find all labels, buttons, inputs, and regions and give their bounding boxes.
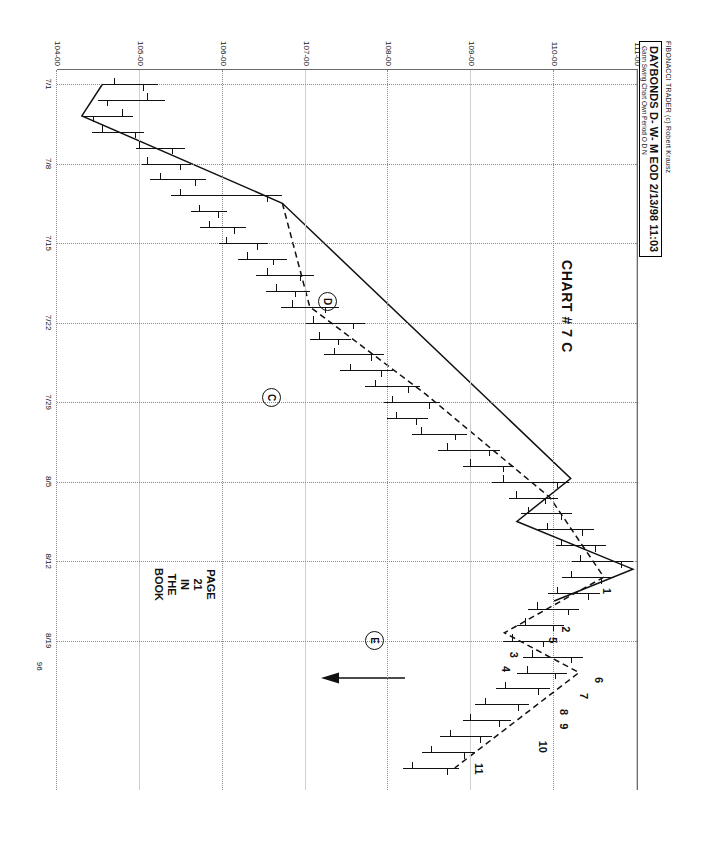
price-axis-tick-label: 110-00	[549, 42, 558, 66]
ohlc-close-tick	[172, 148, 173, 155]
swing-point-number: 5	[547, 637, 559, 643]
date-gridline	[57, 402, 637, 403]
ohlc-open-tick	[579, 555, 580, 562]
ohlc-open-tick	[395, 412, 396, 419]
book-ref-line1: PAGE	[204, 568, 217, 601]
price-gridline	[304, 70, 305, 790]
circled-label-d: D	[318, 292, 337, 311]
ohlc-open-tick	[412, 762, 413, 769]
chart-sheet: FIBONACCI TRADER (c) Robert Krausz DAYBO…	[0, 0, 701, 868]
ohlc-close-tick	[557, 482, 558, 489]
date-axis-tick-label: 7/29	[44, 394, 53, 410]
ohlc-close-tick	[416, 418, 417, 425]
ohlc-bar	[537, 529, 593, 530]
ohlc-bar	[463, 466, 514, 467]
symbol-info-box: DAYBONDS D- W- M EOD 2/13/98 11:03 Gann …	[639, 41, 662, 257]
gann-swing-up-line	[81, 84, 632, 601]
ohlc-open-tick	[147, 157, 148, 164]
ohlc-open-tick	[246, 252, 247, 259]
ohlc-bar	[411, 434, 467, 435]
ohlc-open-tick	[101, 125, 102, 132]
ohlc-bar	[438, 450, 500, 451]
ohlc-bar	[439, 736, 491, 737]
ohlc-open-tick	[571, 571, 572, 578]
ohlc-close-tick	[543, 641, 544, 648]
ohlc-close-tick	[180, 164, 181, 171]
ohlc-bar	[516, 673, 566, 674]
ohlc-open-tick	[375, 380, 376, 387]
software-brand-label: FIBONACCI TRADER (c) Robert Krausz	[665, 41, 672, 257]
price-axis-tick-label: 109-00	[466, 41, 475, 66]
date-gridline	[57, 561, 637, 562]
ohlc-bar	[384, 402, 440, 403]
date-axis-tick-label: 8/19	[44, 633, 53, 649]
ohlc-open-tick	[485, 698, 486, 705]
ohlc-close-tick	[463, 752, 464, 759]
ohlc-open-tick	[524, 618, 525, 625]
ohlc-open-tick	[503, 475, 504, 482]
symbol-label: DAYBONDS D- W- M EOD 2/13/98 11:03	[648, 46, 660, 252]
ohlc-close-tick	[370, 354, 371, 361]
price-axis-tick-label: 108-00	[383, 41, 392, 66]
ohlc-close-tick	[337, 339, 338, 346]
ohlc-open-tick	[114, 78, 115, 85]
ohlc-open-tick	[470, 459, 471, 466]
ohlc-close-tick	[294, 291, 295, 298]
swing-point-number: 11	[472, 763, 484, 775]
ohlc-bar	[403, 768, 459, 769]
rotated-page-wrapper: FIBONACCI TRADER (c) Robert Krausz DAYBO…	[0, 0, 701, 868]
book-ref-line4: THE	[165, 568, 178, 601]
ohlc-close-tick	[568, 609, 569, 616]
ohlc-bar	[522, 657, 582, 658]
ohlc-bar	[171, 195, 282, 196]
ohlc-close-tick	[234, 227, 235, 234]
ohlc-open-tick	[546, 523, 547, 530]
price-plot-area[interactable]: CHART # 7 C PAGE 21 IN THE BOOK 111-0011…	[57, 69, 638, 790]
ohlc-close-tick	[571, 657, 572, 664]
ohlc-open-tick	[225, 237, 226, 244]
ohlc-bar	[547, 593, 599, 594]
ohlc-open-tick	[319, 332, 320, 339]
ohlc-close-tick	[143, 84, 144, 91]
date-axis-tick-label: 7/8	[44, 158, 53, 169]
ohlc-close-tick	[582, 529, 583, 536]
study-label: Gann Swing Chart Own Period O D N	[641, 46, 648, 252]
date-axis-tick-label: 7/15	[44, 235, 53, 251]
ohlc-close-tick	[352, 323, 353, 330]
price-gridline	[553, 70, 554, 790]
ohlc-close-tick	[518, 704, 519, 711]
ohlc-close-tick	[256, 243, 257, 250]
swing-point-number: 10	[536, 741, 548, 753]
ohlc-close-tick	[93, 116, 94, 123]
ohlc-open-tick	[420, 427, 421, 434]
ohlc-open-tick	[528, 507, 529, 514]
ohlc-bar	[323, 354, 383, 355]
ohlc-open-tick	[122, 109, 123, 116]
price-axis-tick-label: 105-00	[135, 41, 144, 66]
ohlc-close-tick	[554, 673, 555, 680]
ohlc-open-tick	[209, 221, 210, 228]
ohlc-close-tick	[601, 577, 602, 584]
ohlc-open-tick	[159, 173, 160, 180]
ohlc-bar	[365, 386, 420, 387]
ohlc-open-tick	[267, 268, 268, 275]
ohlc-bar	[508, 498, 558, 499]
price-gridline	[636, 70, 637, 790]
ohlc-open-tick	[536, 602, 537, 609]
ohlc-bar	[527, 609, 578, 610]
price-gridline	[470, 70, 471, 790]
ohlc-open-tick	[447, 443, 448, 450]
ohlc-bar	[255, 275, 313, 276]
ohlc-close-tick	[134, 132, 135, 139]
ohlc-close-tick	[621, 561, 622, 568]
swing-point-number: 2	[559, 626, 571, 632]
ohlc-open-tick	[470, 714, 471, 721]
book-ref-line2: 21	[191, 568, 204, 601]
chart-header: FIBONACCI TRADER (c) Robert Krausz DAYBO…	[638, 41, 672, 257]
ohlc-close-tick	[107, 100, 108, 107]
ohlc-close-tick	[587, 593, 588, 600]
swing-point-number: 4	[500, 666, 512, 672]
ohlc-bar	[516, 625, 563, 626]
ohlc-open-tick	[561, 539, 562, 546]
ohlc-bar	[572, 561, 632, 562]
